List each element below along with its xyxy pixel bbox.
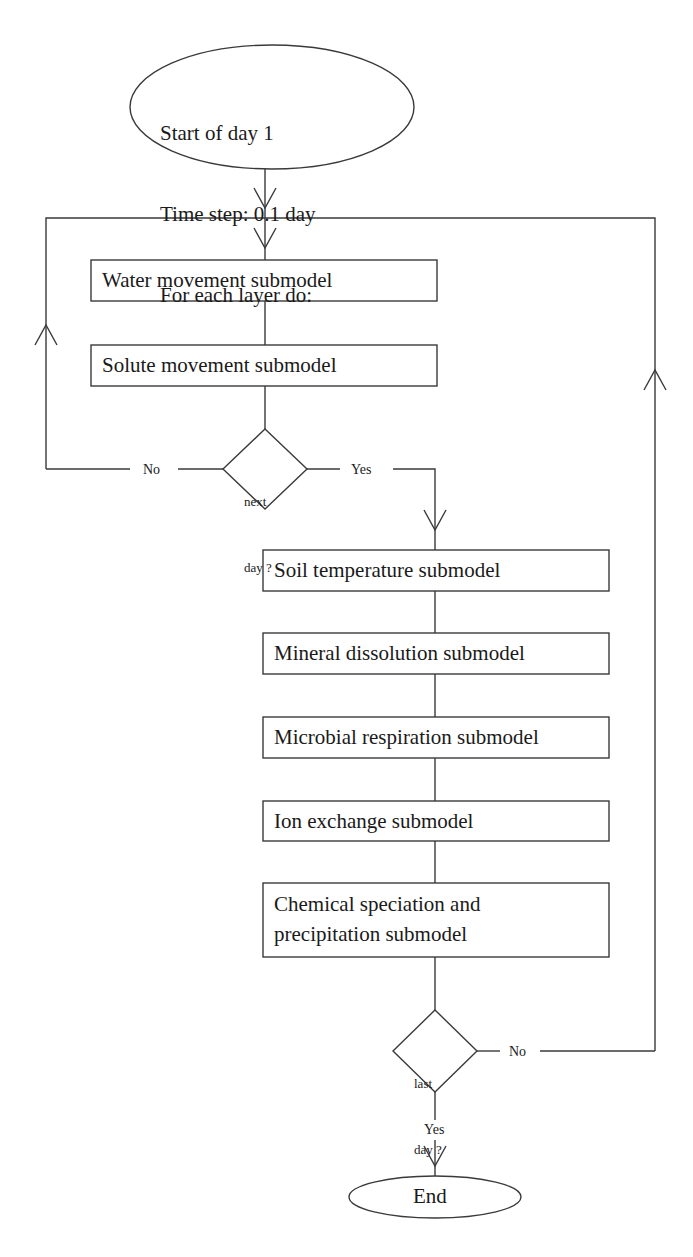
flowchart-connectors: [0, 0, 693, 1257]
mineral-dissolution-box: Mineral dissolution submodel: [274, 643, 525, 664]
next-day-line-1: next: [244, 491, 272, 513]
next-day-decision: next day ?: [244, 447, 272, 601]
end-node: End: [413, 1186, 447, 1207]
chemical-speciation-box: Chemical speciation and precipitation su…: [274, 889, 480, 949]
next-day-line-2: day ?: [244, 557, 272, 579]
last-day-line-2: day ?: [414, 1139, 442, 1161]
next-day-yes-label: Yes: [349, 463, 373, 477]
ion-exchange-box: Ion exchange submodel: [274, 811, 473, 832]
last-day-line-1: last: [414, 1073, 442, 1095]
microbial-respiration-box: Microbial respiration submodel: [274, 727, 539, 748]
solute-movement-box: Solute movement submodel: [102, 355, 336, 376]
last-day-yes-label: Yes: [422, 1123, 446, 1137]
next-day-no-label: No: [141, 463, 162, 477]
soil-temperature-box: Soil temperature submodel: [274, 560, 500, 581]
last-day-decision: last day ?: [414, 1029, 442, 1183]
last-day-no-label: No: [507, 1045, 528, 1059]
water-movement-box: Water movement submodel: [102, 270, 332, 291]
start-node: Start of day 1 Time step: 0.1 day For ea…: [160, 66, 316, 336]
start-line-2: Time step: 0.1 day: [160, 201, 316, 228]
start-line-1: Start of day 1: [160, 120, 316, 147]
